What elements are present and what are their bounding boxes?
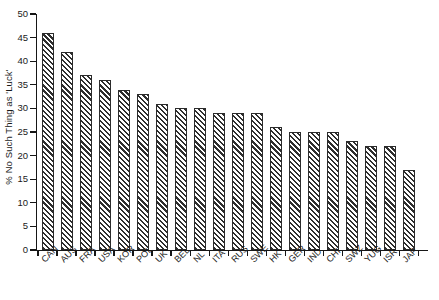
y-tick [30, 131, 36, 132]
x-tick-label: POL [135, 258, 141, 264]
y-tick [30, 61, 36, 62]
x-tick [170, 251, 171, 256]
bar [346, 141, 358, 250]
bar [327, 132, 339, 250]
bar [270, 127, 282, 250]
y-tick [30, 249, 36, 250]
x-tick-label: AUS [59, 258, 65, 264]
bar [384, 146, 396, 250]
bar-chart: % No Such Thing as 'Luck' 05101520253035… [0, 0, 439, 300]
y-tick-label: 0 [4, 245, 28, 255]
y-tick-label: 40 [4, 56, 28, 66]
x-tick-label: NL [192, 258, 198, 264]
x-tick-label: HK [268, 258, 274, 264]
y-tick [30, 179, 36, 180]
x-tick-label: FRA [78, 258, 84, 264]
x-tick-label: SWE [249, 258, 255, 264]
bar [61, 52, 73, 250]
x-tick-label: CAN [40, 258, 46, 264]
y-tick-label: 50 [4, 9, 28, 19]
x-tick [228, 251, 229, 256]
y-tick [30, 84, 36, 85]
bar [118, 90, 130, 250]
x-tick-label: UK [154, 258, 160, 264]
x-tick-label: IND [306, 258, 312, 264]
x-tick-label: SWZ [344, 258, 350, 264]
x-tick-label: USA [97, 258, 103, 264]
x-tick-label: JAP [401, 258, 407, 264]
bar [251, 113, 263, 250]
x-tick-label: RUS [230, 258, 236, 264]
bar [365, 146, 377, 250]
x-tick-label: GER [287, 258, 293, 264]
x-tick-label: YUG [363, 258, 369, 264]
x-tick-label: KOR [116, 258, 122, 264]
x-tick-label: BEL [173, 258, 179, 264]
x-tick [209, 251, 210, 256]
x-tick-label: ISR [382, 258, 388, 264]
bar [137, 94, 149, 250]
bar [80, 75, 92, 250]
y-tick-label: 5 [4, 221, 28, 231]
x-tick-label: ITA [211, 258, 217, 264]
y-tick-label: 10 [4, 198, 28, 208]
y-tick-label: 15 [4, 174, 28, 184]
x-tick-label: CHI [325, 258, 331, 264]
y-tick-label: 30 [4, 103, 28, 113]
bars-layer [37, 14, 428, 250]
y-tick [30, 202, 36, 203]
bar [99, 80, 111, 250]
y-tick-label: 25 [4, 127, 28, 137]
bar [232, 113, 244, 250]
y-tick-label: 20 [4, 151, 28, 161]
y-tick-label: 45 [4, 33, 28, 43]
bar [156, 104, 168, 250]
x-tick [285, 251, 286, 256]
y-tick [30, 13, 36, 14]
bar [194, 108, 206, 250]
bar [403, 170, 415, 250]
bar [308, 132, 320, 250]
x-tick [37, 251, 38, 256]
y-tick [30, 226, 36, 227]
y-tick [30, 37, 36, 38]
y-tick [30, 108, 36, 109]
y-tick-label: 35 [4, 80, 28, 90]
y-tick [30, 155, 36, 156]
bar [289, 132, 301, 250]
bar [175, 108, 187, 250]
bar [213, 113, 225, 250]
bar [42, 33, 54, 250]
